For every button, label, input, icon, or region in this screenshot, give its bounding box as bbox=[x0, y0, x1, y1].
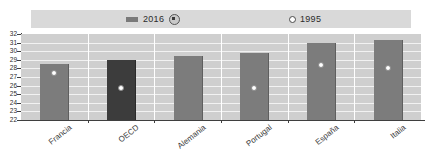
y-axis-tick-mark bbox=[17, 51, 21, 52]
chart-container: 2016 1995 3231302928272625242322 Francia… bbox=[0, 0, 431, 167]
y-axis-tick-label: 31 bbox=[3, 40, 17, 47]
marker-1995-oecd[interactable] bbox=[118, 85, 124, 91]
marker-1995-italia[interactable] bbox=[385, 65, 391, 71]
x-axis-tick-mark bbox=[221, 120, 222, 123]
x-axis-tick-mark bbox=[354, 120, 355, 123]
marker-1995-portugal[interactable] bbox=[251, 85, 257, 91]
x-axis-line bbox=[19, 120, 425, 121]
y-axis-tick-mark bbox=[17, 103, 21, 104]
y-axis-tick-label: 24 bbox=[3, 100, 17, 107]
x-axis-label-alemania: Alemania bbox=[175, 123, 207, 151]
legend-item-1995[interactable]: 1995 bbox=[289, 14, 321, 24]
gridline-category-separator bbox=[154, 34, 155, 120]
plot-frame bbox=[21, 34, 421, 120]
bar-swatch-icon bbox=[126, 17, 138, 22]
marker-1995-francia[interactable] bbox=[51, 70, 57, 76]
y-axis-tick-label: 25 bbox=[3, 91, 17, 98]
plot-area bbox=[21, 34, 421, 120]
gridline-category-separator bbox=[288, 34, 289, 120]
legend-item-2016[interactable]: 2016 bbox=[126, 14, 180, 25]
y-axis-tick-label: 32 bbox=[3, 31, 17, 38]
y-axis-tick-mark bbox=[17, 111, 21, 112]
x-axis-label-portugal: Portugal bbox=[245, 123, 274, 148]
y-axis-tick-mark bbox=[17, 34, 21, 35]
y-axis-tick-label: 22 bbox=[3, 117, 17, 124]
legend-label-2016: 2016 bbox=[143, 14, 164, 24]
y-axis-tick-label: 27 bbox=[3, 74, 17, 81]
y-axis-tick-labels: 3231302928272625242322 bbox=[0, 34, 17, 120]
x-axis-tick-mark bbox=[154, 120, 155, 123]
y-axis-tick-mark bbox=[17, 120, 21, 121]
hollow-circle-icon bbox=[289, 16, 296, 23]
y-axis-tick-mark bbox=[17, 77, 21, 78]
y-axis-tick-label: 23 bbox=[3, 108, 17, 115]
x-axis-label-oecd: OECD bbox=[117, 123, 141, 144]
gridline-category-separator bbox=[354, 34, 355, 120]
x-axis-label-italia: Italia bbox=[388, 123, 407, 141]
y-axis-tick-label: 29 bbox=[3, 57, 17, 64]
x-axis-tick-mark bbox=[88, 120, 89, 123]
y-axis-tick-mark bbox=[17, 60, 21, 61]
bar-2016-españa[interactable] bbox=[307, 43, 336, 120]
x-axis-label-francia: Francia bbox=[47, 123, 74, 147]
y-axis-tick-label: 28 bbox=[3, 65, 17, 72]
gridline-category-separator bbox=[88, 34, 89, 120]
y-axis-tick-label: 30 bbox=[3, 48, 17, 55]
info-circle-icon[interactable] bbox=[169, 14, 180, 25]
gridline-category-separator bbox=[221, 34, 222, 120]
legend-label-1995: 1995 bbox=[300, 14, 321, 24]
y-axis-tick-mark bbox=[17, 94, 21, 95]
chart-legend: 2016 1995 bbox=[31, 10, 411, 28]
x-axis-tick-mark bbox=[288, 120, 289, 123]
x-axis-label-españa: España bbox=[314, 123, 341, 147]
y-axis-tick-mark bbox=[17, 68, 21, 69]
marker-1995-españa[interactable] bbox=[318, 62, 324, 68]
y-axis-tick-label: 26 bbox=[3, 83, 17, 90]
x-axis-category-labels: FranciaOECDAlemaniaPortugalEspañaItalia bbox=[21, 123, 421, 167]
y-axis-tick-mark bbox=[17, 86, 21, 87]
y-axis-tick-mark bbox=[17, 43, 21, 44]
bar-2016-italia[interactable] bbox=[374, 40, 403, 120]
bar-2016-alemania[interactable] bbox=[174, 56, 203, 121]
